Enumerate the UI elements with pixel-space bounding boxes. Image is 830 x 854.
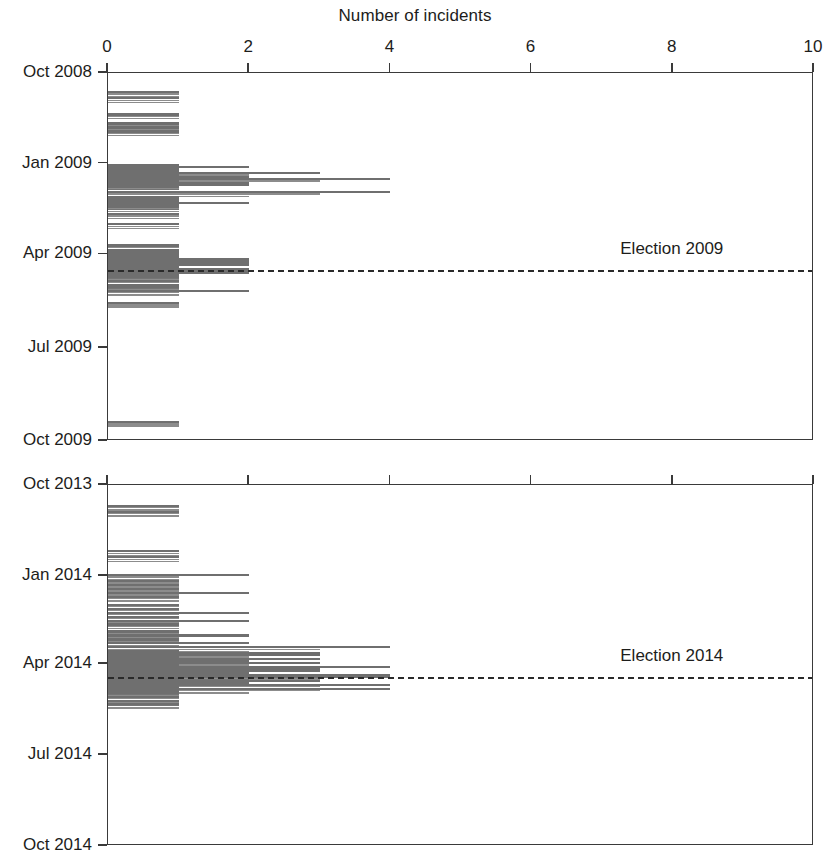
y-tick-label: Oct 2008 [0,62,92,82]
x-tick-label: 6 [526,37,535,57]
y-tick-label: Jul 2014 [0,744,92,764]
incident-bar [108,553,179,554]
incident-bar [108,135,179,136]
incident-bar [108,133,179,134]
incident-bar [108,513,179,514]
incident-bar [108,610,179,611]
incident-bar [108,555,179,556]
incident-bar [108,641,179,642]
y-tick-mark [98,346,107,348]
y-tick-mark [98,574,107,576]
incident-bar [108,582,179,583]
y-tick-label: Jan 2014 [0,565,92,585]
incident-bar [108,188,179,189]
incident-bar [108,116,179,117]
election-2009-dashed-line [108,270,813,272]
y-tick-label: Oct 2009 [0,430,92,450]
x-tick-label: 0 [102,37,111,57]
incident-bar [108,93,179,94]
incident-bar [108,249,179,250]
x-tick-mark [530,475,532,484]
incident-bar [108,118,179,119]
x-tick-label: 2 [243,37,252,57]
incident-bar [108,515,179,516]
election-2014-dashed-line [108,677,813,679]
incident-bar [108,707,179,708]
incident-bar [108,226,179,227]
incident-bar [108,559,179,560]
incident-bar [108,590,179,591]
x-tick-mark [812,475,814,484]
incident-bar [108,208,179,209]
incident-bar [108,288,179,289]
incident-bar [108,561,179,562]
incident-bar [108,698,179,699]
incident-bar [108,215,179,216]
incident-bar [108,626,179,627]
election-2014-label: Election 2014 [620,646,723,666]
incident-bar [108,645,179,646]
incident-bar [108,576,179,577]
election-2009-label: Election 2009 [620,239,723,259]
y-tick-label: Jan 2009 [0,153,92,173]
x-tick-mark [671,63,673,72]
incident-bar [108,614,179,615]
y-tick-mark [98,253,107,255]
x-tick-mark [389,475,391,484]
y-tick-label: Apr 2009 [0,243,92,263]
y-tick-mark [98,162,107,164]
x-axis-title: Number of incidents [0,6,830,26]
x-tick-mark [812,63,814,72]
incident-bar [108,278,179,279]
y-tick-label: Jul 2009 [0,337,92,357]
incident-bar [108,586,179,587]
incident-bar [108,211,179,212]
incident-bar [108,218,179,219]
incident-bar [108,600,179,601]
incident-bar [108,628,179,629]
incident-bar [108,96,179,97]
incident-bar [108,507,179,508]
y-tick-mark [98,753,107,755]
incident-bar [108,294,179,295]
incident-bar [108,423,179,424]
x-tick-label: 10 [804,37,823,57]
incident-bar [108,579,179,580]
y-tick-mark [98,439,107,441]
x-tick-mark [247,63,249,72]
incident-bar [108,509,179,510]
incident-bar [108,306,179,307]
y-tick-label: Oct 2014 [0,835,92,854]
y-tick-mark [98,844,107,846]
y-tick-label: Oct 2013 [0,474,92,494]
incident-bar [108,292,179,293]
incident-bar [108,100,179,101]
y-tick-mark [98,483,107,485]
x-tick-mark [530,63,532,72]
incident-bar [108,193,320,194]
x-tick-mark [389,63,391,72]
incident-bar [108,622,179,623]
x-tick-label: 4 [385,37,394,57]
incident-bar [108,694,179,695]
incident-bar [108,304,179,305]
incident-bar [108,228,179,229]
x-tick-mark [247,475,249,484]
incident-bar [108,637,179,638]
y-tick-mark [98,662,107,664]
incident-bar [108,102,179,103]
x-tick-label: 8 [667,37,676,57]
y-tick-mark [98,71,107,73]
incident-bar [108,594,179,595]
incident-bar [108,702,179,703]
incident-bar [108,125,179,126]
incident-bar [108,282,179,283]
incident-bar [108,191,179,192]
x-tick-mark [671,475,673,484]
incident-bar [108,633,179,634]
incident-bar [108,425,179,426]
y-tick-label: Apr 2014 [0,653,92,673]
incident-bar [108,649,320,650]
incident-bar [108,606,179,607]
